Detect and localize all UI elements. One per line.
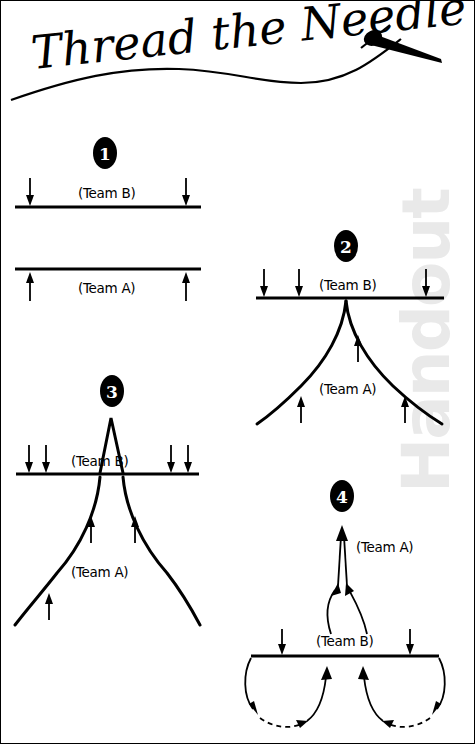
diagram-4-converge-arrow-right bbox=[345, 583, 367, 634]
diagram-4-team-a-label: (Team A) bbox=[356, 539, 413, 555]
diagram-4-down-arrow-right bbox=[406, 629, 414, 655]
handout-page: Handout Thread the Needle 1 (Team B) bbox=[0, 0, 475, 744]
diagram-4-team-b-label: (Team B) bbox=[316, 633, 373, 649]
badge-4-number: 4 bbox=[336, 487, 348, 507]
diagram-4: 4 (Team A) (Team B) bbox=[1, 1, 475, 744]
diagram-4-down-arrow-left bbox=[278, 629, 286, 655]
diagram-4-loop-left bbox=[245, 658, 332, 728]
diagram-4-team-a-exit-arrow bbox=[336, 525, 348, 586]
diagram-4-loop-right bbox=[358, 658, 445, 728]
diagram-4-converge-arrow-left bbox=[328, 583, 341, 634]
